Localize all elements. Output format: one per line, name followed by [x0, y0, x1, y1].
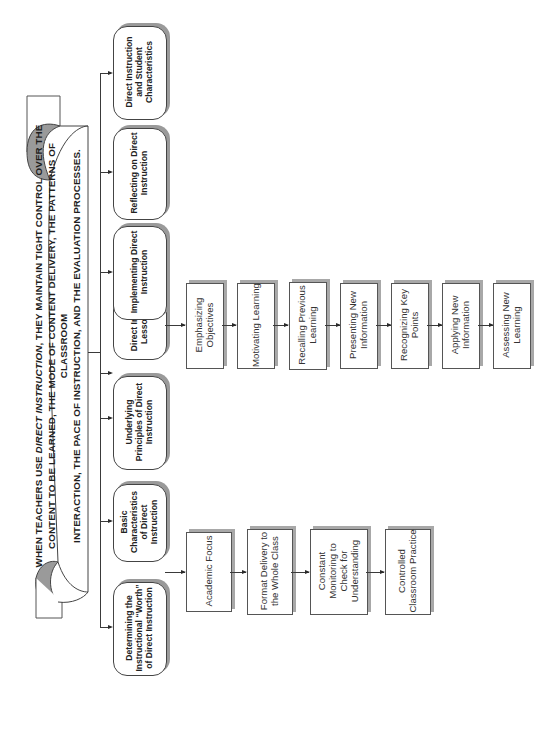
- topic-implementing-label: Implementing Direct Instruction: [121, 230, 157, 314]
- banner-emphasis: DIRECT INSTRUCTION: [33, 346, 44, 454]
- arrow-icon: [108, 371, 113, 375]
- step-recognizing-key-points-label: Recognizing Key Points: [392, 283, 426, 367]
- step-applying-new-information-label: Applying New Information: [443, 283, 477, 367]
- char-controlled-practice-label: Controlled Classroom Practice: [386, 529, 428, 613]
- topic-student-characteristics-label: Direct Instruction and Student Character…: [120, 28, 158, 116]
- banner-line-2: CONTENT TO BE LEARNED, THE MODE OF CONTE…: [46, 116, 71, 576]
- topic-reflecting-label: Reflecting on Direct Instruction: [121, 131, 157, 215]
- topic-underlying-principles-label: Underlying Principles of Direct Instruct…: [120, 380, 158, 464]
- char-constant-monitoring-label: Constant Monitoring to Check for Underst…: [312, 529, 364, 613]
- step-assessing-new-learning-label: Assessing New Learning: [494, 283, 528, 367]
- step-recalling-previous-learning-label: Recalling Previous Learning: [290, 282, 324, 368]
- topic-determining-worth-label: Determining the Instructional “Worth” of…: [120, 584, 158, 672]
- step-motivating-learning-label: Motivating Learning: [238, 283, 272, 367]
- banner-line-3: INTERACTION, THE PACE OF INSTRUCTION, AN…: [71, 149, 84, 543]
- step-presenting-new-information-label: Presenting New Information: [341, 283, 375, 367]
- banner-line-1: WHEN TEACHERS USE DIRECT INSTRUCTION, TH…: [33, 125, 46, 568]
- banner-text: WHEN TEACHERS USE DIRECT INSTRUCTION, TH…: [38, 116, 78, 576]
- banner-connector: [88, 352, 100, 353]
- step-emphasizing-objectives-label: Emphasizing Objectives: [187, 283, 221, 367]
- spine-line: [100, 73, 101, 628]
- char-format-delivery-label: Format Delivery to the Whole Class: [248, 529, 290, 613]
- char-academic-focus-label: Academic Focus: [191, 532, 225, 610]
- topic-basic-characteristics-label: Basic Characteristics of Direct Instruct…: [120, 487, 158, 557]
